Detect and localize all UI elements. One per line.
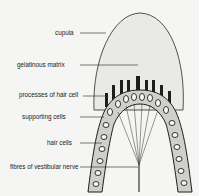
nerve-fibres (118, 104, 158, 192)
label-supporting-cells: supporting cells (22, 113, 66, 120)
label-processes-of-hair-cell: processes of hair cell (19, 91, 81, 98)
label-fibres-of-vestibular-nerve: fibres of vestibular nerve (10, 163, 80, 170)
crista-diagram: cupula gelatinous matrix processes of ha… (0, 0, 199, 196)
label-hair-cells: hair cells (47, 139, 72, 146)
label-cupula: cupula (55, 29, 74, 36)
label-gelatinous-matrix: gelatinous matrix (17, 61, 65, 68)
